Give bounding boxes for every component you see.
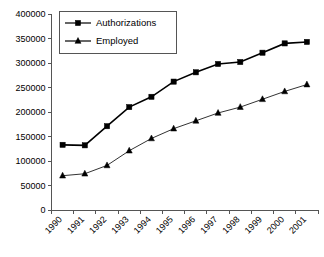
data-point-authorizations-1993 — [127, 105, 132, 110]
series-line-authorizations — [63, 42, 307, 145]
data-point-employed-1993 — [126, 147, 132, 153]
legend-marker-authorizations — [75, 20, 80, 25]
y-tick-label: 400000 — [15, 9, 45, 19]
y-tick-label: 0 — [40, 205, 45, 215]
y-tick-label: 100000 — [15, 156, 45, 166]
chart-canvas: 0500001000001500002000002500003000003500… — [0, 0, 324, 257]
data-point-authorizations-1992 — [104, 124, 109, 129]
y-tick-label: 50000 — [20, 181, 45, 191]
data-point-employed-1992 — [104, 162, 110, 168]
y-tick-label: 200000 — [15, 107, 45, 117]
y-tick-label: 350000 — [15, 34, 45, 44]
data-point-authorizations-1997 — [215, 61, 220, 66]
x-tick-label-1995: 1995 — [154, 214, 175, 235]
x-tick-label-1992: 1992 — [87, 214, 108, 235]
data-point-authorizations-1990 — [60, 142, 65, 147]
data-point-authorizations-1991 — [82, 143, 87, 148]
data-point-authorizations-1995 — [171, 79, 176, 84]
data-point-authorizations-2000 — [282, 41, 287, 46]
line-chart-figure: 0500001000001500002000002500003000003500… — [0, 0, 324, 257]
y-tick-label: 250000 — [15, 83, 45, 93]
y-tick-label: 150000 — [15, 132, 45, 142]
series-line-employed — [63, 85, 307, 176]
x-tick-label-1998: 1998 — [220, 214, 241, 235]
x-tick-label-1999: 1999 — [243, 214, 264, 235]
data-point-authorizations-1996 — [193, 70, 198, 75]
legend-label-authorizations: Authorizations — [96, 17, 156, 28]
data-point-employed-2001 — [304, 81, 310, 87]
data-point-authorizations-1998 — [238, 59, 243, 64]
x-tick-label-1997: 1997 — [198, 214, 219, 235]
x-tick-label-1990: 1990 — [43, 214, 64, 235]
x-tick-label-2001: 2001 — [287, 214, 308, 235]
legend-label-employed: Employed — [96, 35, 138, 46]
x-tick-label-1994: 1994 — [132, 214, 153, 235]
x-tick-label-1991: 1991 — [65, 214, 86, 235]
x-tick-label-1996: 1996 — [176, 214, 197, 235]
data-point-authorizations-1999 — [260, 50, 265, 55]
x-tick-label-1993: 1993 — [109, 214, 130, 235]
y-tick-label: 300000 — [15, 58, 45, 68]
data-point-authorizations-2001 — [304, 39, 309, 44]
x-tick-label-2000: 2000 — [265, 214, 286, 235]
data-point-authorizations-1994 — [149, 94, 154, 99]
